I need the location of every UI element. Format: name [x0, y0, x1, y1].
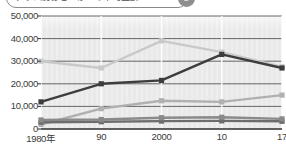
y-axis-tick-label: 30,000 [0, 55, 38, 66]
series-marker-series-dark [219, 52, 224, 57]
series-marker-series-mid-gray [99, 106, 104, 111]
series-marker-series-dark-gray [159, 115, 164, 120]
x-axis-tick-label: 2000 [136, 131, 188, 142]
series-marker-series-dark [38, 99, 43, 104]
y-axis-tick-label: 20,000 [0, 78, 38, 89]
series-marker-series-mid-gray [219, 99, 224, 104]
x-axis-tick-label: 1980年 [15, 131, 67, 145]
chart-canvas [0, 0, 286, 151]
series-marker-series-mid-gray [279, 93, 284, 98]
series-marker-series-mid-gray [159, 98, 164, 103]
series-marker-series-dark [99, 81, 104, 86]
x-axis-tick-label: 10 [196, 131, 248, 142]
series-marker-series-dark-gray [38, 117, 43, 122]
x-axis-tick-label: 17 [256, 131, 286, 142]
series-marker-series-light-gray [99, 65, 104, 70]
x-axis-tick-label: 90 [75, 131, 127, 142]
series-marker-series-dark [159, 78, 164, 83]
chart-screenshot: クラス別おこづかいの平均金額 2 010,00020,00030,00040,0… [0, 0, 286, 151]
series-marker-series-dark-gray [99, 117, 104, 122]
y-axis-tick-label: 50,000 [0, 10, 38, 21]
y-axis-tick-label: 10,000 [0, 100, 38, 111]
series-marker-series-dark-gray [279, 116, 284, 121]
series-marker-series-light-gray [159, 38, 164, 43]
gridlines [41, 16, 282, 129]
y-axis-tick-label: 40,000 [0, 33, 38, 44]
series-marker-series-dark-gray [219, 115, 224, 120]
series-marker-series-dark [279, 65, 284, 70]
axis-layer [38, 16, 283, 129]
